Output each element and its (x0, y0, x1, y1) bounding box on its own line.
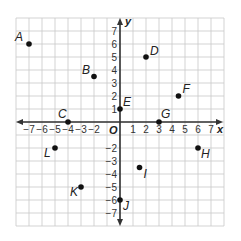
y-tick-label: −6 (106, 195, 118, 206)
x-tick-label: 5 (182, 124, 188, 135)
point-h: H (195, 145, 210, 161)
y-tick-label: −2 (106, 143, 118, 154)
point-dot-icon (143, 54, 149, 60)
x-tick-label: −5 (49, 124, 61, 135)
point-j: J (117, 197, 130, 213)
point-dot-icon (91, 74, 97, 80)
x-tick-label: −4 (62, 124, 74, 135)
x-axis-left-arrow-icon (16, 119, 23, 125)
point-label: K (70, 185, 79, 199)
point-label: L (44, 146, 51, 160)
x-tick-label: 2 (143, 124, 149, 135)
point-dot-icon (52, 145, 58, 151)
point-dot-icon (117, 106, 123, 112)
y-tick-label: −7 (106, 208, 118, 219)
x-tick-label: −2 (88, 124, 100, 135)
x-tick-label: −7 (23, 124, 35, 135)
point-label: E (123, 95, 132, 109)
x-axis-label: x (216, 123, 224, 135)
point-dot-icon (117, 197, 123, 203)
y-axis-label: y (124, 15, 132, 27)
y-tick-label: 2 (111, 91, 117, 102)
y-axis-up-arrow-icon (117, 18, 123, 25)
x-tick-label: 1 (130, 124, 136, 135)
y-tick-label: 4 (111, 65, 117, 76)
y-tick-label: 5 (111, 52, 117, 63)
x-tick-label: 3 (156, 124, 162, 135)
y-axis-down-arrow-icon (117, 219, 123, 226)
point-dot-icon (26, 41, 32, 47)
point-dot-icon (176, 93, 182, 99)
x-tick-label: 4 (169, 124, 175, 135)
point-label: D (150, 44, 159, 58)
point-b: B (82, 63, 97, 80)
x-tick-label: −3 (75, 124, 87, 135)
point-label: C (58, 107, 67, 121)
y-tick-label: −5 (106, 182, 118, 193)
point-l: L (44, 145, 58, 160)
y-tick-label: 1 (111, 104, 117, 115)
point-dot-icon (78, 184, 84, 190)
point-dot-icon (195, 145, 201, 151)
point-label: B (82, 63, 90, 77)
point-label: J (122, 199, 130, 213)
axes: xyO (16, 15, 224, 226)
point-label: H (201, 147, 210, 161)
y-tick-label: 7 (111, 26, 117, 37)
y-tick-label: 6 (111, 39, 117, 50)
origin-label: O (109, 124, 118, 136)
point-label: G (161, 107, 170, 121)
x-tick-label: −6 (36, 124, 48, 135)
point-label: F (183, 82, 191, 96)
coordinate-plane: xyO −7−6−5−4−3−212345677654321−2−3−4−5−6… (0, 0, 241, 241)
point-label: I (144, 167, 148, 181)
point-k: K (70, 184, 84, 199)
point-label: A (14, 30, 23, 44)
x-tick-label: 7 (208, 124, 214, 135)
point-d: D (143, 44, 159, 60)
point-dot-icon (137, 165, 143, 171)
point-i: I (137, 165, 148, 181)
y-tick-label: −3 (106, 156, 118, 167)
x-tick-label: 6 (195, 124, 201, 135)
y-tick-label: −4 (106, 169, 118, 180)
y-tick-label: 3 (111, 78, 117, 89)
